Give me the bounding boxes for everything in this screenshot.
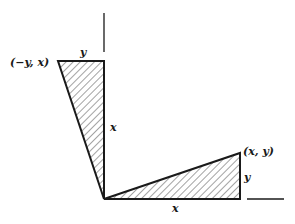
- rotated-point-label: (−y, x): [10, 56, 49, 69]
- original-point-label: (x, y): [243, 145, 274, 158]
- original-triangle: [104, 153, 240, 199]
- bottom-side-x-label: x: [171, 202, 179, 215]
- top-side-y-label: y: [79, 46, 88, 59]
- vertical-side-x-label: x: [109, 121, 117, 134]
- rotation-diagram: (−y, x) y x (x, y) y x: [0, 0, 295, 224]
- rotated-triangle: [58, 61, 104, 199]
- right-side-y-label: y: [243, 171, 252, 184]
